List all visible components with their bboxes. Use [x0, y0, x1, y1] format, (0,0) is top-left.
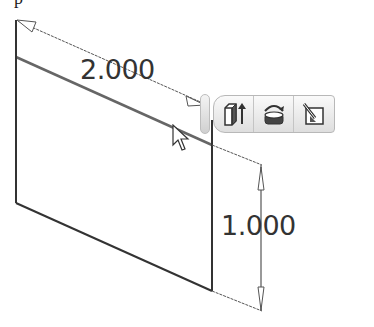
- edit-sketch-button[interactable]: [294, 96, 334, 132]
- mini-toolbar: [200, 94, 335, 134]
- toolbar-grip-handle[interactable]: [200, 94, 210, 134]
- edit-sketch-icon: [300, 101, 328, 127]
- extrude-button[interactable]: [214, 96, 254, 132]
- extrude-icon: [220, 101, 248, 127]
- width-dimension-value[interactable]: 2.000: [80, 54, 155, 85]
- height-dimension-value[interactable]: 1.000: [221, 210, 296, 241]
- mouse-pointer-icon: [172, 124, 192, 154]
- mini-toolbar-buttons: [213, 95, 335, 133]
- revolve-icon: [260, 101, 288, 127]
- revolve-button[interactable]: [254, 96, 294, 132]
- sketch-canvas[interactable]: [0, 0, 374, 327]
